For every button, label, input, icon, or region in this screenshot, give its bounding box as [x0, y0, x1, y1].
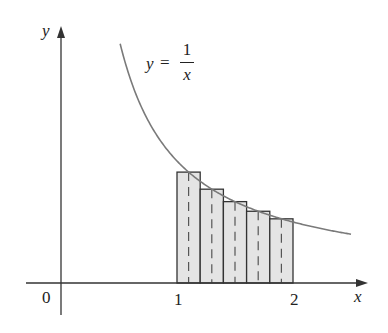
x-axis-arrow-icon [356, 279, 368, 287]
fraction-numerator: 1 [180, 40, 194, 60]
riemann-sum-figure: y x 0 1 2 y = 1 x [0, 0, 388, 333]
function-label-equals: = [160, 54, 170, 71]
riemann-rectangle [223, 202, 246, 283]
x-axis-label: x [354, 288, 362, 305]
y-axis-label: y [42, 22, 50, 39]
function-label-fraction: 1 x [180, 40, 194, 85]
y-axis-arrow-icon [57, 26, 65, 38]
fraction-denominator: x [180, 65, 194, 85]
origin-label: 0 [42, 289, 51, 306]
plot-area [0, 0, 388, 333]
fraction-bar [180, 62, 194, 63]
tick-label-1: 1 [174, 291, 183, 308]
function-label-lhs: y [146, 55, 154, 72]
tick-label-2: 2 [290, 291, 299, 308]
